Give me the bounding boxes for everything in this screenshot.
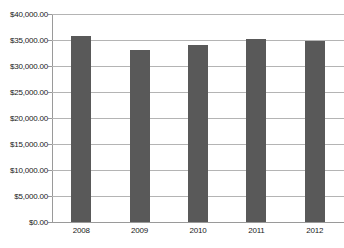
y-axis-tick-label: $40,000.00 [0, 10, 48, 19]
bar-chart: $0.00$5,000.00$10,000.00$15,000.00$20,00… [0, 0, 344, 248]
x-axis-tick-label: 2011 [248, 226, 264, 235]
y-axis-tick-label: $0.00 [0, 218, 48, 227]
x-axis-tick-label: 2009 [131, 226, 148, 235]
y-axis-tick-label: $35,000.00 [0, 36, 48, 45]
y-axis-tick-label: $25,000.00 [0, 88, 48, 97]
x-axis-tick-label: 2008 [73, 226, 90, 235]
bar-2008 [71, 36, 91, 222]
y-axis-tick-label: $5,000.00 [0, 192, 48, 201]
bar-2011 [246, 39, 266, 222]
bar-2010 [188, 45, 208, 222]
y-axis-tick-label: $15,000.00 [0, 140, 48, 149]
x-axis-tick-label: 2010 [190, 226, 207, 235]
y-axis-tick-label: $20,000.00 [0, 114, 48, 123]
bar-2012 [305, 41, 325, 222]
gridline [52, 222, 344, 223]
gridline [52, 40, 344, 41]
y-axis-tick-label: $30,000.00 [0, 62, 48, 71]
plot-area [52, 14, 344, 222]
x-axis-tick-label: 2012 [306, 226, 323, 235]
bar-2009 [130, 50, 150, 222]
gridline [52, 14, 344, 15]
y-axis-tick-label: $10,000.00 [0, 166, 48, 175]
